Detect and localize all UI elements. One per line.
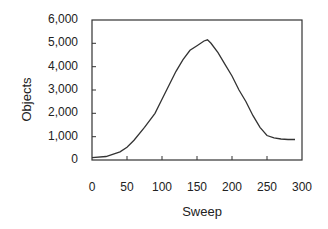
plot-frame	[92, 20, 302, 160]
objects-series-line	[92, 40, 295, 158]
x-axis-ticks	[127, 156, 267, 160]
plot-area	[0, 0, 328, 229]
